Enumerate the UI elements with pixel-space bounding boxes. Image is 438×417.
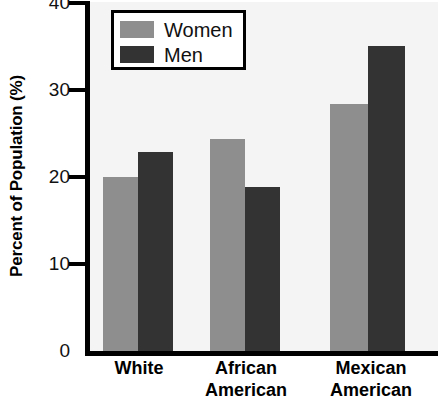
x-axis-category-labels: White African American Mexican American <box>90 358 438 417</box>
legend-item-women: Women <box>120 17 237 42</box>
bar-white-men <box>138 152 173 352</box>
bar-mexican-american-women <box>330 104 368 352</box>
bar-african-american-women <box>210 139 245 352</box>
legend-swatch-men-icon <box>120 46 154 63</box>
y-tick-mark-30 <box>69 88 86 92</box>
legend-swatch-women-icon <box>120 21 154 38</box>
bar-mexican-american-men <box>368 46 405 352</box>
x-category-african-american-line1: African <box>215 358 277 378</box>
legend-item-men: Men <box>120 42 237 67</box>
x-category-mexican-american-line2: American <box>311 380 431 402</box>
bar-white-women <box>103 177 138 352</box>
y-tick-label-20: 20 <box>30 166 70 188</box>
y-tick-label-0: 0 <box>30 340 70 362</box>
y-tick-mark-40 <box>69 1 86 5</box>
y-tick-mark-10 <box>69 262 86 266</box>
y-tick-mark-20 <box>69 175 86 179</box>
x-axis-line <box>85 351 438 356</box>
x-category-african-american-line2: American <box>191 380 301 402</box>
y-tick-label-40: 40 <box>30 0 70 14</box>
chart-legend: Women Men <box>111 10 246 70</box>
bar-chart-figure: Percent of Population (%) 40 30 20 10 0 … <box>0 0 438 417</box>
x-category-white: White <box>84 358 194 380</box>
y-tick-label-10: 10 <box>30 253 70 275</box>
x-category-african-american: African American <box>191 358 301 402</box>
y-axis-tick-labels: 40 30 20 10 0 <box>24 0 70 360</box>
y-tick-label-30: 30 <box>30 79 70 101</box>
x-category-white-line1: White <box>115 358 164 378</box>
x-category-mexican-american-line1: Mexican <box>335 358 406 378</box>
legend-label-men: Men <box>164 45 203 65</box>
bar-african-american-men <box>245 187 280 352</box>
legend-label-women: Women <box>164 20 233 40</box>
x-category-mexican-american: Mexican American <box>311 358 431 402</box>
